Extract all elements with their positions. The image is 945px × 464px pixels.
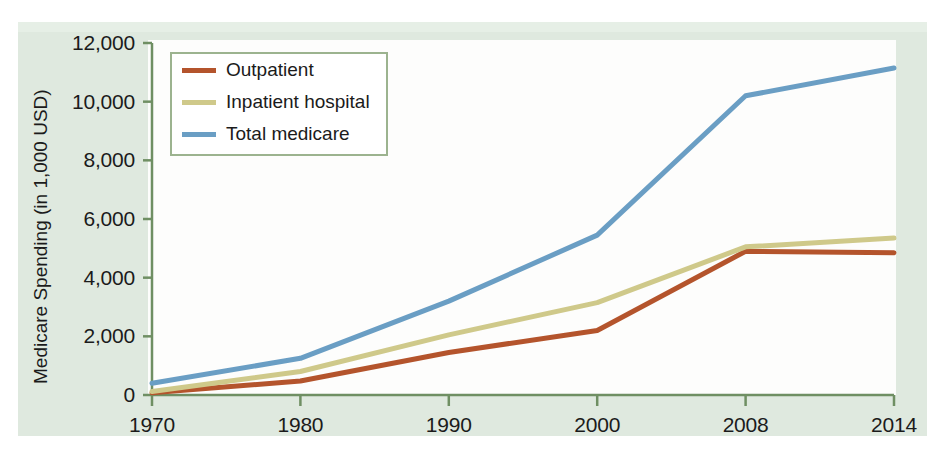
chart-figure: 02,0004,0006,0008,00010,00012,000 197019… — [0, 0, 945, 464]
x-axis-tick-label: 2008 — [723, 413, 769, 437]
chart-legend: Outpatient Inpatient hospital Total medi… — [170, 52, 388, 156]
x-axis-tick-label: 1990 — [426, 413, 472, 437]
y-axis-tick-label: 4,000 — [7, 266, 135, 290]
x-axis-tick-label: 2000 — [574, 413, 620, 437]
legend-swatch-total-medicare — [182, 132, 216, 137]
y-axis-tick-label: 8,000 — [7, 148, 135, 172]
legend-swatch-inpatient-hospital — [182, 100, 216, 105]
x-axis-tick-label: 1970 — [129, 413, 175, 437]
legend-label: Total medicare — [226, 123, 350, 145]
y-axis-tick-label: 2,000 — [7, 324, 135, 348]
legend-item: Total medicare — [172, 118, 386, 150]
y-axis-tick-label: 10,000 — [7, 90, 135, 114]
x-axis-tick-label: 1980 — [277, 413, 323, 437]
legend-swatch-outpatient — [182, 68, 216, 73]
legend-item: Inpatient hospital — [172, 86, 386, 118]
legend-item: Outpatient — [172, 54, 386, 86]
y-axis-label: Medicare Spending (in 1,000 USD) — [30, 24, 52, 384]
y-axis-tick-label: 12,000 — [7, 31, 135, 55]
y-axis-tick-label: 0 — [7, 383, 135, 407]
x-axis-tick-label: 2014 — [871, 413, 917, 437]
legend-label: Outpatient — [226, 59, 314, 81]
legend-label: Inpatient hospital — [226, 91, 370, 113]
y-axis-tick-label: 6,000 — [7, 207, 135, 231]
chart-canvas — [0, 0, 945, 464]
